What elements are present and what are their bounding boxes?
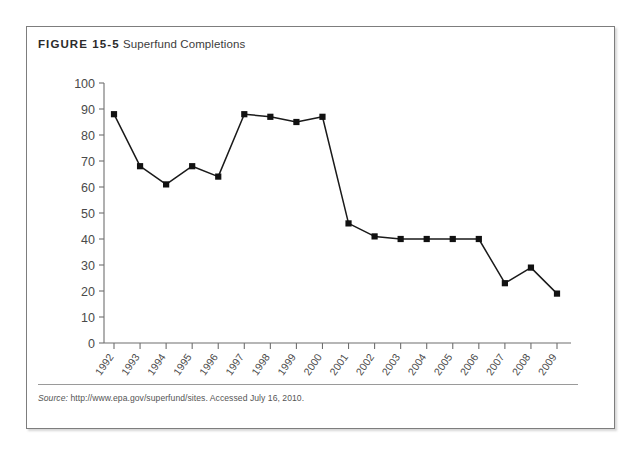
y-axis-tick-label: 100 (74, 77, 95, 91)
data-point-marker (398, 236, 404, 242)
data-point-marker (554, 291, 560, 297)
data-point-marker (319, 114, 325, 120)
data-point-marker (189, 163, 195, 169)
y-axis: 0102030405060708090100 (74, 77, 104, 351)
x-axis-tick-label: 1999 (275, 351, 298, 377)
x-axis-tick-label: 2000 (301, 351, 324, 377)
x-axis-tick-label: 1994 (145, 351, 168, 377)
y-axis-tick-label: 90 (81, 103, 95, 117)
x-axis-tick-label: 2005 (431, 351, 454, 377)
x-axis-tick-label: 1995 (171, 351, 194, 377)
x-axis-tick-label: 2001 (327, 351, 350, 377)
x-axis-tick-label: 1996 (197, 351, 220, 377)
y-axis-tick-label: 60 (81, 181, 95, 195)
y-axis-tick-label: 0 (88, 337, 95, 351)
data-point-marker (528, 265, 534, 271)
data-point-marker (450, 236, 456, 242)
y-axis-tick-label: 10 (81, 311, 95, 325)
data-point-marker (163, 181, 169, 187)
data-point-marker (267, 114, 273, 120)
line-chart: 0102030405060708090100 19921993199419951… (27, 27, 616, 430)
source-note: Source: http://www.epa.gov/superfund/sit… (38, 393, 304, 403)
figure-card: FIGURE 15-5 Superfund Completions 010203… (26, 26, 615, 429)
x-axis-tick-label: 1997 (223, 351, 246, 377)
x-axis-tick-label: 2009 (535, 351, 558, 377)
y-axis-tick-label: 20 (81, 285, 95, 299)
x-axis-tick-label: 2003 (379, 351, 402, 377)
data-point-marker (476, 236, 482, 242)
series-line (114, 114, 557, 293)
source-label: Source: (38, 393, 68, 403)
data-point-marker (215, 174, 221, 180)
x-axis-tick-label: 2002 (353, 351, 376, 377)
data-series-superfund-completions (111, 111, 560, 297)
data-point-marker (502, 280, 508, 286)
source-divider (38, 384, 578, 385)
x-axis-tick-label: 2006 (457, 351, 480, 377)
data-point-marker (345, 220, 351, 226)
x-axis-tick-label: 1992 (92, 351, 115, 377)
y-axis-tick-label: 70 (81, 155, 95, 169)
data-point-marker (137, 163, 143, 169)
source-url-text: http://www.epa.gov/superfund/sites. Acce… (70, 393, 304, 403)
y-axis-tick-label: 80 (81, 129, 95, 143)
data-point-marker (424, 236, 430, 242)
y-axis-tick-label: 30 (81, 259, 95, 273)
data-point-marker (241, 111, 247, 117)
y-axis-tick-label: 40 (81, 233, 95, 247)
y-axis-tick-label: 50 (81, 207, 95, 221)
x-axis: 1992199319941995199619971998199920002001… (92, 343, 571, 377)
x-axis-tick-label: 1993 (118, 351, 141, 377)
x-axis-tick-label: 1998 (249, 351, 272, 377)
data-point-marker (293, 119, 299, 125)
x-axis-tick-label: 2007 (483, 351, 506, 377)
x-axis-tick-label: 2008 (509, 351, 532, 377)
data-point-marker (111, 111, 117, 117)
x-axis-tick-label: 2004 (405, 351, 428, 377)
data-point-marker (371, 233, 377, 239)
